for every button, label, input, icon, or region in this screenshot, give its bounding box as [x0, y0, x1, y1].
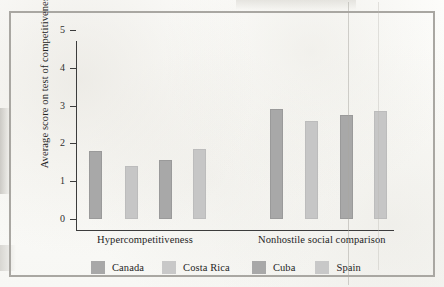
x-axis-line	[76, 230, 394, 231]
bar-cuba-1	[159, 160, 172, 219]
y-tick-label-wrap: 2	[49, 138, 65, 148]
y-tick-label: 4	[60, 63, 65, 73]
bar-canada-1	[89, 151, 102, 219]
y-tick-mark	[70, 143, 76, 144]
y-tick-label-wrap: 3	[49, 101, 65, 111]
legend-label: Canada	[112, 262, 144, 273]
y-tick-mark	[70, 68, 76, 69]
y-tick-label: 3	[60, 101, 65, 111]
y-tick-label: 0	[60, 214, 65, 224]
legend-swatch-icon	[162, 261, 176, 274]
bar-costa-rica-2	[305, 121, 318, 219]
bar-spain-2	[374, 111, 387, 219]
legend-swatch-icon	[252, 261, 266, 274]
legend-item-canada[interactable]: Canada	[91, 261, 144, 274]
y-tick-label: 2	[60, 138, 65, 148]
y-tick-mark	[70, 219, 76, 220]
y-tick-label: 1	[60, 176, 65, 186]
legend-swatch-icon	[91, 261, 105, 274]
bar-spain-1	[193, 149, 206, 219]
legend-item-spain[interactable]: Spain	[315, 261, 360, 274]
y-tick-label: 5	[60, 25, 65, 35]
y-tick-label-wrap: 4	[49, 63, 65, 73]
y-tick-mark	[70, 181, 76, 182]
y-tick-label-wrap: 0	[49, 214, 65, 224]
y-axis-title: Average score on test of competitiveness	[39, 0, 50, 176]
figure-frame: Average score on test of competitiveness…	[9, 11, 435, 277]
bar-costa-rica-1	[125, 166, 138, 219]
legend-label: Spain	[336, 262, 360, 273]
category-label-2: Nonhostile social comparison	[258, 234, 386, 245]
chart-legend: CanadaCosta RicaCubaSpain	[91, 261, 361, 274]
y-tick-mark	[70, 106, 76, 107]
bar-canada-2	[270, 109, 283, 219]
y-axis-line	[76, 41, 77, 231]
bar-cuba-2	[340, 115, 353, 219]
legend-item-costa-rica[interactable]: Costa Rica	[162, 261, 230, 274]
legend-label: Costa Rica	[183, 262, 230, 273]
y-tick-mark	[70, 30, 76, 31]
y-tick-label-wrap: 1	[49, 176, 65, 186]
category-label-1: Hypercompetitiveness	[97, 234, 193, 245]
legend-item-cuba[interactable]: Cuba	[252, 261, 296, 274]
legend-swatch-icon	[315, 261, 329, 274]
y-tick-label-wrap: 5	[49, 25, 65, 35]
legend-label: Cuba	[273, 262, 296, 273]
